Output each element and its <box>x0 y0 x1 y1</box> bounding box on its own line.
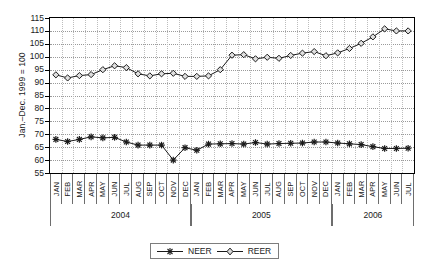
x-tick-month-label: MAY <box>380 181 389 197</box>
x-tick-month: FEB <box>344 174 356 204</box>
y-tick-label: 70 <box>24 130 44 139</box>
x-tick-month: MAY <box>238 174 250 204</box>
x-tick-month: APR <box>226 174 238 204</box>
y-tick-label: 100 <box>24 52 44 61</box>
y-tick-label: 75 <box>24 117 44 126</box>
x-tick-month: MAR <box>355 174 367 204</box>
x-axis-year-labels: 200420052006 <box>49 204 415 226</box>
x-tick-month-label: NOV <box>168 181 177 197</box>
x-tick-month: MAY <box>379 174 391 204</box>
x-tick-month-label: OCT <box>157 181 166 197</box>
plot-area <box>49 17 415 174</box>
x-tick-month: DEC <box>320 174 332 204</box>
y-tick-label: 110 <box>24 26 44 35</box>
x-tick-month-label: MAY <box>98 181 107 197</box>
x-tick-month: FEB <box>62 174 74 204</box>
x-axis-year-group: 2006 <box>332 204 414 226</box>
x-tick-month-label: AUG <box>133 181 142 197</box>
x-tick-month-label: APR <box>86 181 95 197</box>
x-tick-month: OCT <box>156 174 168 204</box>
x-tick-month: JAN <box>332 174 344 204</box>
legend-marker-reer <box>217 247 243 256</box>
x-tick-month: JUN <box>109 174 121 204</box>
series-lines <box>50 18 414 173</box>
x-tick-month-label: JUL <box>121 182 130 196</box>
x-axis-year-group: 2004 <box>50 204 191 226</box>
y-tick-label: 95 <box>24 65 44 74</box>
y-tick-label: 80 <box>24 104 44 113</box>
x-axis-year-label: 2005 <box>252 210 271 220</box>
x-tick-month-label: NOV <box>309 181 318 197</box>
x-tick-month: NOV <box>308 174 320 204</box>
x-tick-month: OCT <box>297 174 309 204</box>
legend-label-neer: NEER <box>187 246 213 256</box>
x-tick-month: AUG <box>273 174 285 204</box>
x-tick-month: AUG <box>132 174 144 204</box>
y-tick-label: 85 <box>24 91 44 100</box>
x-tick-month-label: JUL <box>262 182 271 196</box>
legend-label-reer: REER <box>247 246 273 256</box>
x-tick-month-label: APR <box>368 181 377 197</box>
x-tick-month-label: SEP <box>145 181 154 196</box>
x-axis-year-label: 2004 <box>111 210 130 220</box>
x-tick-month: JUN <box>250 174 262 204</box>
y-tick-label: 60 <box>24 156 44 165</box>
x-tick-month-label: FEB <box>344 182 353 197</box>
x-tick-month: MAR <box>73 174 85 204</box>
x-axis-year-group: 2005 <box>191 204 332 226</box>
x-tick-month-label: FEB <box>63 182 72 197</box>
x-tick-month: JUN <box>391 174 403 204</box>
x-tick-month: MAY <box>97 174 109 204</box>
x-tick-month-label: JUL <box>403 182 412 196</box>
x-tick-month: APR <box>367 174 379 204</box>
x-tick-month-label: JAN <box>192 182 201 196</box>
x-tick-month-label: MAY <box>239 181 248 197</box>
x-tick-month-label: FEB <box>204 182 213 197</box>
x-tick-month: DEC <box>179 174 191 204</box>
series-reer <box>53 26 411 81</box>
x-tick-month-label: MAR <box>215 181 224 198</box>
x-tick-month-label: AUG <box>274 181 283 197</box>
x-tick-month: JAN <box>50 174 62 204</box>
x-tick-month-label: MAR <box>356 181 365 198</box>
x-tick-month-label: JAN <box>51 182 60 196</box>
x-tick-month: NOV <box>167 174 179 204</box>
x-tick-month: JUL <box>261 174 273 204</box>
y-tick-label: 90 <box>24 78 44 87</box>
x-tick-month-label: DEC <box>180 181 189 197</box>
x-tick-month: APR <box>85 174 97 204</box>
x-tick-month: JUL <box>402 174 414 204</box>
y-tick-label: 55 <box>24 169 44 178</box>
legend-marker-neer <box>157 247 183 256</box>
x-tick-month: JUL <box>120 174 132 204</box>
x-tick-month-label: SEP <box>286 181 295 196</box>
chart-root: Jan.–Dec. 1999 = 100 5560657075808590951… <box>0 0 423 272</box>
y-tick-label: 65 <box>24 143 44 152</box>
x-tick-month-label: DEC <box>321 181 330 197</box>
x-tick-month-label: JUN <box>250 182 259 197</box>
series-neer <box>53 134 412 164</box>
x-tick-month-label: OCT <box>297 181 306 197</box>
x-tick-month: FEB <box>203 174 215 204</box>
chart-legend: NEER REER <box>150 243 279 259</box>
x-tick-month-label: JAN <box>333 182 342 196</box>
x-axis-month-labels: JANFEBMARAPRMAYJUNJULAUGSEPOCTNOVDECJANF… <box>49 174 415 204</box>
x-tick-month: MAR <box>214 174 226 204</box>
x-tick-month-label: JUN <box>110 182 119 197</box>
x-axis-year-label: 2006 <box>363 210 382 220</box>
x-tick-month: JAN <box>191 174 203 204</box>
x-tick-month-label: MAR <box>74 181 83 198</box>
x-tick-month-label: JUN <box>391 182 400 197</box>
x-tick-month: SEP <box>144 174 156 204</box>
y-tick-label: 115 <box>24 14 44 23</box>
x-tick-month-label: APR <box>227 181 236 197</box>
x-tick-month: SEP <box>285 174 297 204</box>
y-tick-label: 105 <box>24 39 44 48</box>
